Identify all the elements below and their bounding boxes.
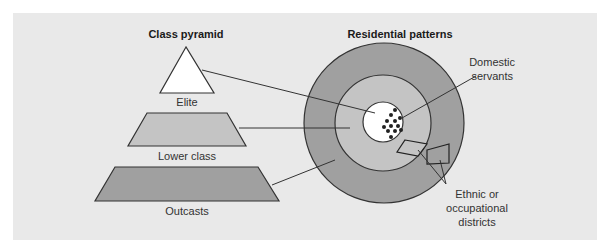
- center-circle: [363, 102, 403, 142]
- lower-class-trapezoid: [128, 113, 246, 146]
- ethnic-districts-label-2: occupational: [446, 202, 508, 214]
- outcasts-label: Outcasts: [165, 205, 209, 217]
- lower-class-label: Lower class: [158, 150, 217, 162]
- class-pyramid-title: Class pyramid: [148, 28, 223, 40]
- domestic-servants-label-1: Domestic: [469, 56, 515, 68]
- ethnic-districts-label-3: districts: [458, 216, 496, 228]
- domestic-servants-label-2: servants: [471, 70, 513, 82]
- outcasts-trapezoid: [95, 167, 279, 201]
- diagram-canvas: Class pyramid Residential patterns Elite…: [0, 0, 610, 251]
- elite-triangle: [160, 47, 214, 93]
- residential-patterns-title: Residential patterns: [347, 28, 452, 40]
- ethnic-districts-label-1: Ethnic or: [455, 188, 499, 200]
- elite-label: Elite: [176, 96, 197, 108]
